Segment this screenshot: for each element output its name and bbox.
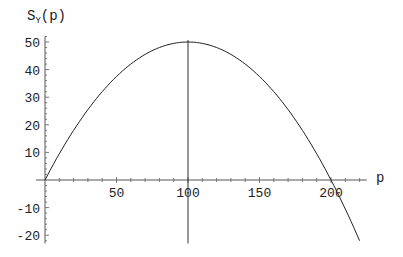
x-tick-label: 150 xyxy=(248,186,271,201)
data-curve xyxy=(45,42,360,241)
y-tick-label: 40 xyxy=(24,64,40,79)
y-axis-label: SY(p) xyxy=(27,8,66,26)
axes xyxy=(36,36,367,243)
ticks xyxy=(45,36,360,240)
y-tick-label: -20 xyxy=(17,229,40,244)
y-tick-label: 20 xyxy=(24,119,40,134)
y-tick-label: 50 xyxy=(24,36,40,51)
y-tick-label: -10 xyxy=(17,202,40,217)
x-axis-label: p xyxy=(376,170,384,186)
tick-labels: 501001502005040302010-10-20 xyxy=(17,36,343,244)
x-tick-label: 50 xyxy=(109,186,125,201)
y-tick-label: 10 xyxy=(24,146,40,161)
x-tick-label: 200 xyxy=(319,186,342,201)
y-tick-label: 30 xyxy=(24,91,40,106)
chart: 501001502005040302010-10-20 p SY(p) xyxy=(0,0,403,257)
